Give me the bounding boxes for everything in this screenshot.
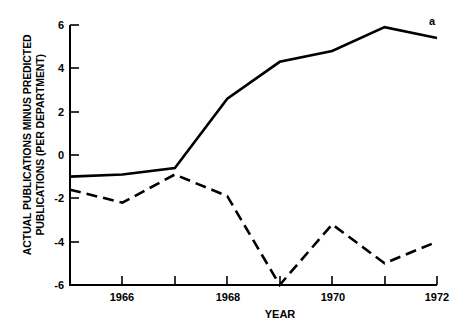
series-a-line xyxy=(70,27,437,177)
series-b-line xyxy=(70,175,437,286)
y-axis-ticks xyxy=(70,25,79,285)
chart-figure: ACTUAL PUBLICATIONS MINUS PREDICTED PUBL… xyxy=(0,0,468,333)
axis-spines xyxy=(70,25,437,285)
plot-area xyxy=(0,0,468,333)
